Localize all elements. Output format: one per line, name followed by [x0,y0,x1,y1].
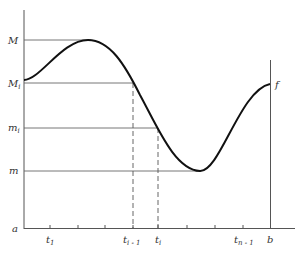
label-M: M [7,35,19,46]
label-t-n-minus-1: tn - 1 [234,234,254,247]
label-t-i: ti [155,234,161,247]
label-a: a [12,223,18,234]
label-b: b [267,234,273,245]
label-m: m [9,165,18,176]
label-Mi: Mi [7,78,21,91]
label-t1: t1 [46,234,55,247]
label-f: f [274,79,281,90]
function-curve [24,40,270,171]
label-mi: mi [8,122,20,135]
label-t-i-minus-1: ti - 1 [123,234,141,247]
riemann-sum-diagram: M Mi mi m a t1 ti - 1 ti tn - 1 b f [0,0,303,254]
